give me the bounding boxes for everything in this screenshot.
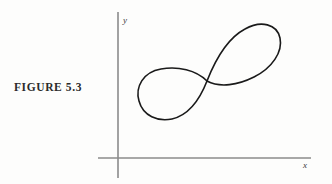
figure-page: FIGURE 5.3 y x [0, 0, 332, 184]
x-axis-label: x [302, 160, 307, 170]
y-axis-label: y [122, 15, 127, 25]
figure-eight-curve [138, 24, 281, 120]
plot-canvas: y x [0, 0, 332, 184]
